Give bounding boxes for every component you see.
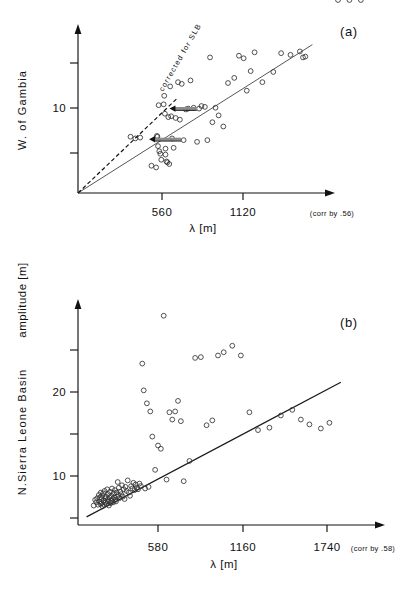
y-axis-arrowhead bbox=[75, 24, 82, 34]
data-point bbox=[358, 0, 363, 2]
data-point bbox=[181, 138, 186, 143]
data-point bbox=[159, 157, 164, 162]
data-point bbox=[178, 419, 183, 424]
panel-a-points bbox=[128, 49, 308, 170]
correction-arrow-2 bbox=[149, 136, 181, 142]
figure-container: amplitude [m] W. of Gambia (a) 10 560 bbox=[0, 0, 402, 592]
panel-a-xtick-1120: 1120 bbox=[230, 206, 256, 218]
data-point bbox=[169, 114, 174, 119]
panel-b-points bbox=[91, 0, 363, 509]
data-point bbox=[256, 428, 261, 433]
x-axis-arrowhead bbox=[325, 190, 335, 197]
global-y-axis-title: amplitude [m] bbox=[16, 262, 28, 338]
data-point bbox=[216, 113, 221, 118]
panel-b: N.Sierra Leone Basin (b) 20 10 bbox=[16, 0, 395, 570]
panel-b-ytick-20: 20 bbox=[52, 386, 66, 398]
data-point bbox=[260, 80, 265, 85]
data-point bbox=[216, 353, 221, 358]
data-point bbox=[221, 350, 226, 355]
panel-a-x-axis: 560 1120 bbox=[78, 190, 335, 218]
data-point bbox=[153, 467, 158, 472]
data-point bbox=[156, 443, 161, 448]
data-point bbox=[210, 418, 215, 423]
data-point bbox=[171, 145, 176, 150]
data-point bbox=[163, 146, 168, 151]
data-point bbox=[248, 69, 253, 74]
data-point bbox=[230, 343, 235, 348]
panel-b-side-title: N.Sierra Leone Basin bbox=[16, 369, 28, 496]
x-axis-arrowhead bbox=[375, 522, 385, 529]
data-point bbox=[149, 163, 154, 168]
data-point bbox=[177, 117, 182, 122]
data-point bbox=[161, 313, 166, 318]
data-point bbox=[271, 70, 276, 75]
data-point bbox=[156, 103, 161, 108]
data-point bbox=[156, 144, 161, 149]
data-point bbox=[279, 51, 284, 56]
data-point bbox=[244, 88, 249, 93]
data-point bbox=[193, 356, 198, 361]
data-point bbox=[202, 104, 207, 109]
data-point bbox=[204, 423, 209, 428]
data-point bbox=[195, 139, 200, 144]
data-point bbox=[125, 478, 130, 483]
panel-b-corr-note: (corr by .58) bbox=[351, 544, 396, 553]
data-point bbox=[154, 165, 159, 170]
data-point bbox=[164, 477, 169, 482]
data-point bbox=[133, 136, 138, 141]
panel-b-xtick-580: 580 bbox=[148, 541, 168, 553]
data-point bbox=[232, 75, 237, 80]
data-point bbox=[128, 134, 133, 139]
data-point bbox=[141, 388, 146, 393]
data-point bbox=[176, 399, 181, 404]
panel-a-x-axis-title: λ [m] bbox=[189, 222, 216, 234]
data-point bbox=[238, 353, 243, 358]
panel-b-ytick-10: 10 bbox=[52, 470, 66, 482]
data-point bbox=[327, 420, 332, 425]
panel-a-fit-lines bbox=[78, 45, 312, 193]
data-point bbox=[181, 479, 186, 484]
correction-arrow-1 bbox=[169, 105, 196, 111]
data-point bbox=[347, 0, 352, 2]
data-point bbox=[226, 81, 231, 86]
data-point bbox=[298, 417, 303, 422]
data-point bbox=[210, 120, 215, 125]
scatter-figure: amplitude [m] W. of Gambia (a) 10 560 bbox=[0, 0, 402, 592]
data-point bbox=[148, 409, 153, 414]
data-point bbox=[167, 410, 172, 415]
panel-b-x-axis-title: λ [m] bbox=[210, 558, 237, 570]
data-point bbox=[161, 102, 166, 107]
panel-a-label: (a) bbox=[340, 24, 358, 39]
data-point bbox=[115, 480, 120, 485]
data-point bbox=[170, 417, 175, 422]
data-point bbox=[208, 55, 213, 60]
data-point bbox=[144, 401, 149, 406]
panel-a-plot-area bbox=[78, 45, 312, 193]
data-point bbox=[221, 124, 226, 129]
data-point bbox=[198, 355, 203, 360]
panel-a-side-title: W. of Gambia bbox=[16, 70, 28, 150]
trend-line-regression bbox=[78, 45, 312, 193]
data-point bbox=[247, 410, 252, 415]
panel-a-corr-note: (corr by .56) bbox=[310, 209, 355, 218]
panel-b-plot-area bbox=[87, 0, 364, 517]
data-point bbox=[237, 53, 242, 58]
panel-a: W. of Gambia (a) 10 560 1120 λ [m] bbox=[16, 22, 358, 234]
data-point bbox=[173, 409, 178, 414]
data-point bbox=[288, 52, 293, 57]
y-axis-arrowhead bbox=[75, 299, 82, 309]
data-point bbox=[162, 93, 167, 98]
data-point bbox=[163, 152, 168, 157]
panel-b-label: (b) bbox=[340, 315, 358, 330]
panel-a-xtick-560: 560 bbox=[152, 206, 172, 218]
panel-a-y-axis: 10 bbox=[52, 24, 81, 193]
panel-a-ytick-10: 10 bbox=[52, 102, 66, 114]
panel-b-xtick-1160: 1160 bbox=[230, 541, 256, 553]
data-point bbox=[140, 361, 145, 366]
panel-b-xtick-1740: 1740 bbox=[313, 541, 340, 553]
panel-b-x-axis: 580 1160 1740 bbox=[78, 522, 385, 553]
data-point bbox=[188, 78, 193, 83]
data-point bbox=[307, 422, 312, 427]
data-point bbox=[150, 434, 155, 439]
data-point bbox=[138, 135, 143, 140]
